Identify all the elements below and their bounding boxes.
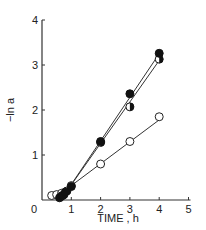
y-tick-label: 4 [32,14,38,26]
filled-circles-fit-line [67,54,159,191]
filled-circle-marker [97,138,105,146]
x-tick-label: 4 [156,203,162,215]
y-axis-title: −ln a [4,97,16,122]
x-tick-label: 0 [31,203,37,215]
x-tick-label: 5 [185,203,191,215]
open-circles-fit-line [71,120,159,186]
chart: 0123451234 TIME , h −ln a [0,0,206,230]
axes: 0123451234 [31,14,192,215]
data-points [48,49,164,201]
open-circle-marker [97,160,105,168]
x-axis-title: TIME , h [97,212,139,224]
filled-circle-marker [67,183,75,191]
y-tick-label: 3 [32,59,38,71]
open-circle-marker [155,113,163,121]
y-tick-label: 1 [32,149,38,161]
filled-circle-marker [126,90,134,98]
filled-circle-marker [155,49,163,57]
fit-lines [67,54,159,191]
open-circle-marker [126,138,134,146]
x-tick-label: 1 [68,203,74,215]
y-tick-label: 2 [32,104,38,116]
half-filled-circles-fit-line [67,61,159,192]
